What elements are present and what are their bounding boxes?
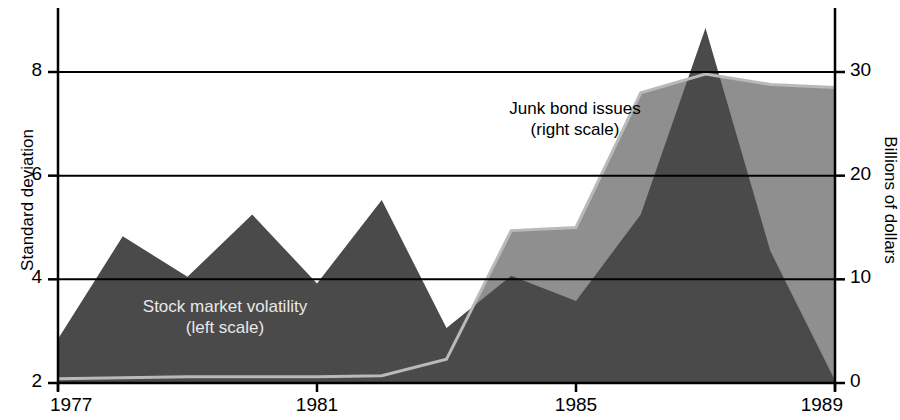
annotation-stock-volatility: Stock market volatility (left scale)	[100, 296, 350, 338]
y-axis-right-tick-label: 10	[850, 266, 871, 288]
y-axis-left-tick-label: 2	[0, 370, 42, 392]
x-axis-tick-label: 1989	[743, 394, 843, 416]
y-axis-right-tick-label: 0	[850, 370, 861, 392]
annotation-stock-volatility-line2: (left scale)	[100, 317, 350, 338]
y-axis-left-tick-label: 4	[0, 266, 42, 288]
annotation-junk-bond-line1: Junk bond issues	[455, 98, 695, 119]
y-axis-left-tick-label: 8	[0, 59, 42, 81]
y-axis-right-tick-label: 20	[850, 163, 871, 185]
y-axis-right-tick-label: 30	[850, 59, 871, 81]
annotation-stock-volatility-line1: Stock market volatility	[100, 296, 350, 317]
x-axis-tick-label: 1981	[267, 394, 367, 416]
annotation-junk-bond-line2: (right scale)	[455, 119, 695, 140]
y-axis-right-title: Billions of dollars	[880, 80, 900, 320]
y-axis-left-tick-label: 6	[0, 163, 42, 185]
annotation-junk-bond: Junk bond issues (right scale)	[455, 98, 695, 140]
x-axis-tick-label: 1985	[526, 394, 626, 416]
x-axis-tick-label: 1977	[50, 394, 150, 416]
